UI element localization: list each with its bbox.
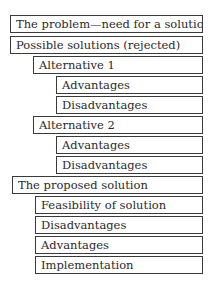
outline-item-possible-solutions: Possible solutions (rejected): [10, 36, 203, 54]
outline-item-proposed-disadvantages: Disadvantages: [35, 216, 203, 234]
outline-item-problem: The problem—need for a solution: [10, 15, 203, 33]
outline-item-alt1-disadvantages: Disadvantages: [56, 96, 203, 114]
outline-item-alt1-advantages: Advantages: [56, 76, 203, 94]
proposal-outline-diagram: The problem—need for a solution Possible…: [0, 0, 215, 285]
outline-item-alternative-2: Alternative 2: [33, 116, 203, 134]
outline-item-proposed-advantages: Advantages: [35, 236, 203, 254]
outline-item-alt2-disadvantages: Disadvantages: [56, 156, 203, 174]
outline-item-alt2-advantages: Advantages: [56, 136, 203, 154]
outline-item-alternative-1: Alternative 1: [33, 56, 203, 74]
outline-item-implementation: Implementation: [35, 256, 203, 274]
outline-item-proposed-solution: The proposed solution: [12, 176, 203, 194]
outline-item-feasibility: Feasibility of solution: [35, 196, 203, 214]
